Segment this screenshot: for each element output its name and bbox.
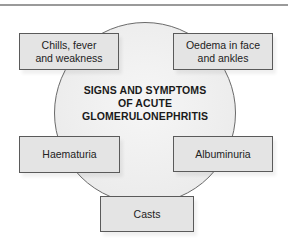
symptom-label-line-2: and ankles — [186, 52, 260, 65]
symptom-label: Albuminuria — [195, 148, 250, 161]
symptom-label-line-1: Chills, fever — [35, 39, 102, 52]
symptom-box-oedema: Oedema in face and ankles — [173, 33, 273, 70]
symptom-label-line-1: Oedema in face — [186, 39, 260, 52]
symptom-label-line-2: and weakness — [35, 52, 102, 65]
symptom-box-casts: Casts — [100, 196, 194, 232]
title-line-3: GLOMERULONEPHRITIS — [54, 110, 236, 123]
title-line-2: OF ACUTE — [54, 97, 236, 110]
title-line-1: SIGNS AND SYMPTOMS — [54, 84, 236, 97]
symptom-box-albuminuria: Albuminuria — [173, 136, 273, 172]
symptom-label: Casts — [134, 208, 161, 221]
top-divider-rule — [0, 4, 288, 6]
symptom-box-chills-fever-weakness: Chills, fever and weakness — [19, 33, 119, 70]
symptom-label: Haematuria — [42, 148, 96, 161]
symptom-box-haematuria: Haematuria — [19, 136, 120, 173]
central-title: SIGNS AND SYMPTOMS OF ACUTE GLOMERULONEP… — [54, 84, 236, 123]
